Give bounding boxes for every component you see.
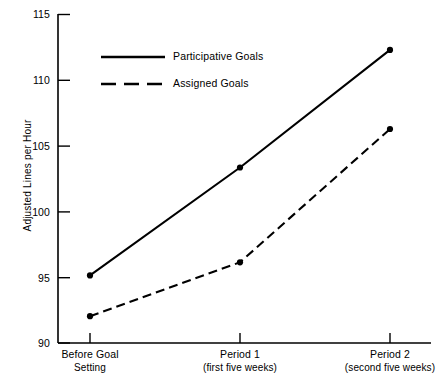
- x-tick-label-line2: (second five weeks): [345, 361, 435, 374]
- y-tick-label-110: 110: [18, 74, 50, 86]
- y-tick-label-115: 115: [18, 8, 50, 20]
- series-markers-assigned-goals: [87, 126, 393, 319]
- x-tick-label-line1: Period 1: [220, 348, 260, 360]
- series-line-assigned-goals: [90, 129, 390, 316]
- legend-label-assigned-goals: Assigned Goals: [173, 77, 249, 89]
- y-tick-label-90: 90: [18, 337, 50, 349]
- x-tick-label-line2: Setting: [61, 361, 118, 374]
- x-axis-ticks: [90, 333, 390, 343]
- x-tick-label-line2: (first five weeks): [203, 361, 277, 374]
- line-chart: Adjusted Lines per Hour 115 110 105 100 …: [0, 0, 438, 374]
- x-tick-label-period-1: Period 1 (first five weeks): [203, 348, 277, 374]
- x-tick-label-line1: Before Goal: [61, 348, 118, 360]
- y-axis-title: Adjusted Lines per Hour: [22, 91, 33, 261]
- x-tick-label-before-goal-setting: Before Goal Setting: [61, 348, 118, 374]
- y-tick-label-100: 100: [18, 206, 50, 218]
- y-tick-label-105: 105: [18, 140, 50, 152]
- legend-label-participative-goals: Participative Goals: [173, 50, 263, 62]
- x-tick-label-period-2: Period 2 (second five weeks): [345, 348, 435, 374]
- y-axis-ticks: [58, 15, 70, 344]
- x-tick-label-line1: Period 2: [370, 348, 410, 360]
- y-tick-label-95: 95: [18, 272, 50, 284]
